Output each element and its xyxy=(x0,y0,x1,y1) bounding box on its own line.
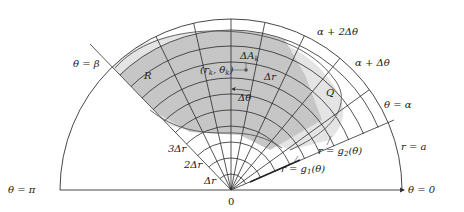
label-delta-r: Δr xyxy=(263,71,277,82)
label-region-R: R xyxy=(143,70,152,81)
label-alpha-dtheta: α + Δθ xyxy=(355,57,390,68)
label-ring-2: 2Δr xyxy=(183,159,204,170)
label-r-a: r = a xyxy=(401,141,427,152)
polar-region-diagram: θ = β R Q α + 2Δθ α + Δθ θ = α (rk, θk) … xyxy=(0,0,464,212)
label-delta-theta: Δθ xyxy=(237,92,251,103)
label-ring-3: 3Δr xyxy=(168,143,188,154)
label-ring-1: Δr xyxy=(203,175,217,186)
label-theta-pi: θ = π xyxy=(8,184,36,195)
label-g2: r = g2(θ) xyxy=(318,145,362,158)
label-origin: 0 xyxy=(228,196,234,207)
label-g1: r = g1(θ) xyxy=(281,163,325,176)
label-theta-zero: θ = 0 xyxy=(408,184,436,195)
label-theta-alpha: θ = α xyxy=(384,99,412,110)
label-alpha-2dtheta: α + 2Δθ xyxy=(317,26,358,37)
label-theta-beta: θ = β xyxy=(73,58,100,69)
label-cell-Q: Q xyxy=(326,87,334,98)
